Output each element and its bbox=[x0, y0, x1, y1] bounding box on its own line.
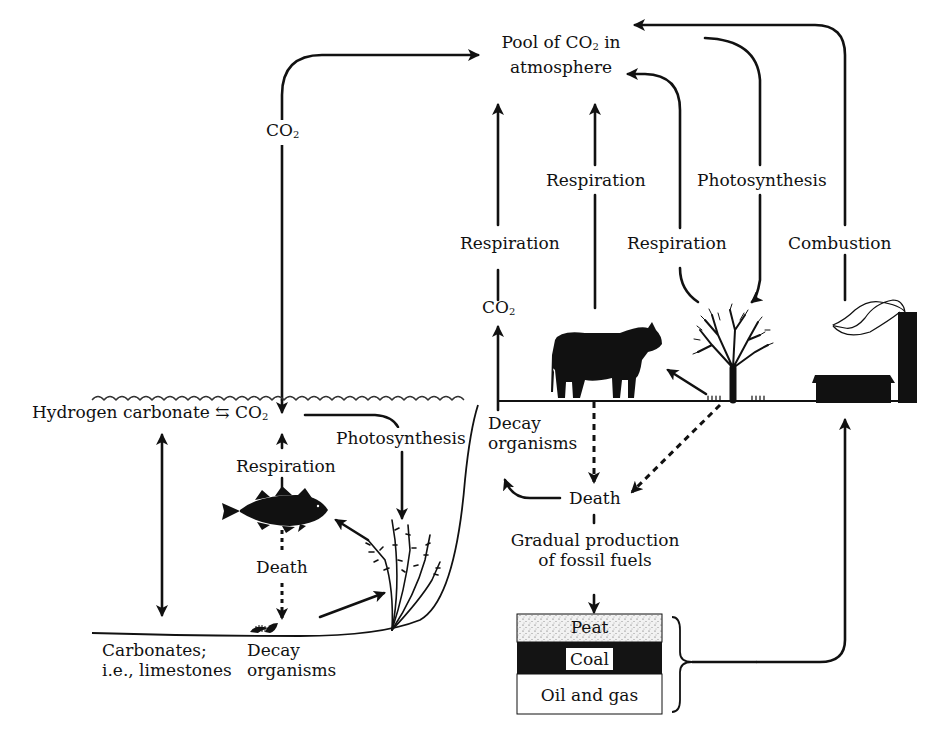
oil-gas-layer-label: Oil and gas bbox=[517, 685, 662, 705]
fossil-fuel-production-label: Gradual production of fossil fuels bbox=[505, 530, 685, 570]
arrow-photosynthesis-water bbox=[305, 415, 398, 427]
fish-illustration bbox=[222, 486, 328, 533]
decay-organisms-land-label: Decay organisms bbox=[488, 413, 577, 453]
brace bbox=[672, 617, 692, 712]
cow-illustration bbox=[551, 322, 662, 398]
equilibrium-icon: ⇆ bbox=[215, 402, 229, 422]
photosynthesis-water-label: Photosynthesis bbox=[334, 428, 468, 448]
co2-left-label: CO2 bbox=[264, 120, 301, 145]
respiration-fish-label: Respiration bbox=[236, 456, 336, 476]
decay-organisms-sea-label: Decay organisms bbox=[247, 640, 336, 680]
carbon-cycle-diagram: Pool of CO2 in atmosphere CO2 Respiratio… bbox=[0, 0, 936, 732]
co2-water-label: CO2 bbox=[235, 402, 268, 422]
arrow-tree-death-dashed bbox=[632, 405, 720, 492]
co2-decay-label: CO2 bbox=[482, 297, 515, 322]
arrow-water-to-pool bbox=[282, 55, 478, 400]
respiration-tree-label: Respiration bbox=[627, 233, 727, 253]
peat-layer-label: Peat bbox=[517, 617, 662, 637]
tree-illustration bbox=[693, 304, 773, 400]
decaying-organism-illustration bbox=[250, 623, 278, 633]
factory-illustration bbox=[812, 300, 917, 403]
pool-of-co2-node: Pool of CO2 in atmosphere bbox=[486, 32, 636, 77]
arrow-tree-respiration bbox=[680, 268, 698, 302]
diagram-graphics bbox=[0, 0, 936, 732]
respiration-decay-label: Respiration bbox=[460, 233, 560, 253]
carbonates-label: Carbonates; i.e., limestones bbox=[102, 640, 232, 680]
combustion-label: Combustion bbox=[788, 233, 891, 253]
water-surface bbox=[92, 397, 464, 401]
arrow-fossil-to-factory bbox=[757, 420, 845, 662]
hydrogen-carbonate-label: Hydrogen carbonate ⇆ CO2 bbox=[32, 402, 268, 427]
respiration-cow-label: Respiration bbox=[546, 170, 646, 190]
photosynthesis-tree-label: Photosynthesis bbox=[697, 170, 827, 190]
arrow-photosynthesis-tree bbox=[705, 38, 760, 165]
death-fish-label: Death bbox=[256, 557, 308, 577]
death-land-label: Death bbox=[567, 488, 623, 508]
coal-layer-label: Coal bbox=[517, 649, 662, 669]
